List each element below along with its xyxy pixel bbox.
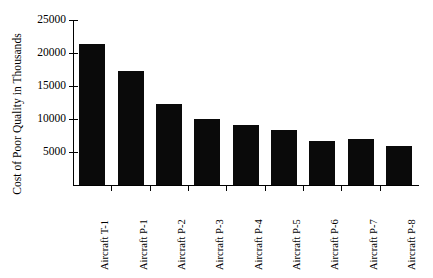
x-axis-line [73, 185, 419, 186]
x-tick-mark [303, 185, 304, 191]
y-tick-label: 10000 [37, 113, 66, 125]
x-axis-label: Aircraft P-8 [404, 196, 418, 270]
y-tick-label: 5000 [43, 146, 66, 158]
y-axis-title: Cost of Poor Quality in Thousands [0, 16, 34, 212]
bar [348, 139, 374, 185]
bar [79, 44, 105, 185]
y-tick-label: 20000 [37, 47, 66, 59]
x-tick-mark [188, 185, 189, 191]
y-tick-label: 25000 [37, 14, 66, 26]
x-tick-mark [265, 185, 266, 191]
x-axis-label: Aircraft P-6 [327, 196, 341, 270]
x-axis-label: Aircraft P-1 [136, 196, 150, 270]
x-tick-mark [341, 185, 342, 191]
x-tick-mark [150, 185, 151, 191]
bar [309, 141, 335, 185]
bar [156, 104, 182, 185]
x-tick-mark [380, 185, 381, 191]
x-tick-mark [111, 185, 112, 191]
x-axis-label: Aircraft P-7 [366, 196, 380, 270]
plot-area [73, 20, 418, 185]
x-axis-label: Aircraft P-3 [212, 196, 226, 270]
bar-chart: Cost of Poor Quality in Thousands 500010… [0, 0, 433, 278]
x-axis-label: Aircraft P-2 [174, 196, 188, 270]
bar [233, 125, 259, 185]
x-axis-label: Aircraft P-4 [251, 196, 265, 270]
bar [271, 130, 297, 185]
x-axis-label: Aircraft P-5 [289, 196, 303, 270]
x-axis-label: Aircraft T-1 [97, 196, 111, 270]
y-tick-label: 15000 [37, 80, 66, 92]
bar [194, 119, 220, 185]
bar [386, 146, 412, 185]
bar [118, 71, 144, 185]
x-tick-mark [226, 185, 227, 191]
